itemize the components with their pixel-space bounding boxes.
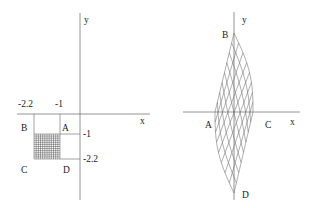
right-vertex-label-d: D xyxy=(242,190,249,200)
left-y-axis-label: y xyxy=(84,15,89,25)
tick-label-y-neg2.2: -2.2 xyxy=(83,154,98,164)
tick-label-x-neg2.2: -2.2 xyxy=(18,99,33,109)
right-vertex-label-c: C xyxy=(265,120,271,130)
right-y-axis-label: y xyxy=(242,15,247,25)
left-vertex-label-c: C xyxy=(21,165,27,175)
right-x-axis-label: x xyxy=(290,117,295,127)
tick-label-x-neg1: -1 xyxy=(55,99,63,109)
left-plot: y x -2.2 -1 -1 -2.2 B A C D xyxy=(17,13,150,200)
right-vertex-label-b: B xyxy=(222,30,228,40)
tick-label-y-neg1: -1 xyxy=(83,129,91,139)
right-vertex-label-a: A xyxy=(205,120,212,130)
left-vertex-label-d: D xyxy=(63,165,70,175)
left-vertex-label-a: A xyxy=(62,123,69,133)
left-vertex-label-b: B xyxy=(21,123,27,133)
left-x-axis-label: x xyxy=(140,116,145,126)
right-plot: y x B A C D xyxy=(183,12,300,200)
diagram-canvas: y x -2.2 -1 -1 -2.2 B A C D y x B A C D xyxy=(0,0,311,208)
square-grid xyxy=(34,134,60,159)
